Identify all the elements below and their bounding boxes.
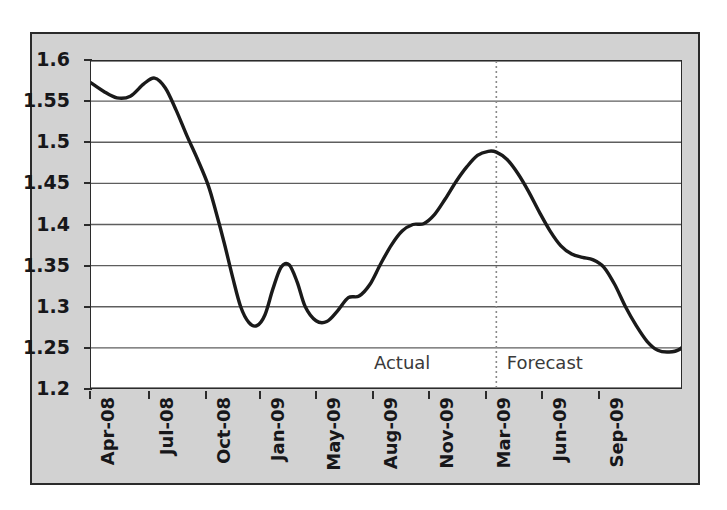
y-axis-tick-label: 1.35 [23,256,70,275]
x-axis-tick-label: May-09 [325,397,343,471]
x-axis-tick-label: Nov-09 [438,397,456,469]
x-axis-tick-label: Mar-09 [495,397,513,468]
x-axis-tick-label: Jun-09 [551,397,569,462]
y-axis-tick-label: 1.5 [36,132,70,151]
x-axis-tick-mark [315,391,317,399]
gridlines [90,61,682,388]
chart-frame: 1.61.551.51.451.41.351.31.251.2 ActualFo… [30,32,700,485]
x-axis-tick-label: Jul-08 [158,397,176,455]
y-axis-tick-label: 1.2 [36,379,70,398]
x-axis-tick-mark [205,391,207,399]
y-axis-tick-label: 1.55 [23,91,70,110]
x-axis-tick-mark [428,391,430,399]
actual-label: Actual [374,354,430,372]
x-axis-tick-mark [259,391,261,399]
y-axis-tick-label: 1.3 [36,297,70,316]
y-axis-tick-label: 1.45 [23,173,70,192]
y-axis-tick-label: 1.25 [23,338,70,357]
x-axis-tick-label: Jan-09 [269,397,287,461]
x-axis-tick-label: Sep-09 [608,397,626,468]
y-axis-tick-label: 1.6 [36,50,70,69]
y-axis-tick-label: 1.4 [36,215,70,234]
x-axis-tick-mark [598,391,600,399]
x-axis-tick-label: Apr-08 [99,397,117,465]
y-axis-tick-labels: 1.61.551.51.451.41.351.31.251.2 [32,34,84,487]
x-axis-tick-label: Oct-08 [215,397,233,464]
x-axis-tick-label: Aug-09 [382,397,400,469]
x-axis-tick-labels: Apr-08Jul-08Oct-08Jan-09May-09Aug-09Nov-… [90,391,682,487]
chart-figure: 1.61.551.51.451.41.351.31.251.2 ActualFo… [0,0,727,510]
data-series-line [90,78,682,352]
forecast-label: Forecast [507,354,583,372]
x-axis-tick-mark [541,391,543,399]
x-axis-tick-mark [485,391,487,399]
x-axis-tick-mark [148,391,150,399]
x-axis-tick-mark [372,391,374,399]
plot-area: ActualForecast [90,60,682,389]
x-axis-tick-mark [89,391,91,399]
series-path [90,78,682,352]
plot-svg [90,60,682,389]
